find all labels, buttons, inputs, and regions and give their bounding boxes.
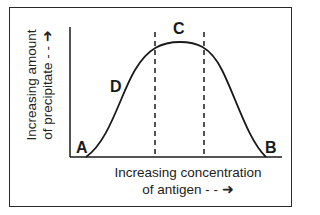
x-axis-label-line2: of antigen - - ➜ <box>88 181 288 198</box>
point-label-c: C <box>173 20 185 38</box>
x-axis-label-line1: Increasing concentration <box>88 164 288 181</box>
point-label-d: D <box>110 78 122 96</box>
x-axis-label: Increasing concentration of antigen - - … <box>88 164 288 198</box>
precipitation-curve <box>86 42 266 157</box>
point-label-a: A <box>76 139 88 157</box>
point-label-b: B <box>265 139 277 157</box>
y-axis-label-line1: Increasing amount <box>24 10 40 160</box>
y-axis-label: Increasing amount of precipitate - - ➜ <box>24 10 56 160</box>
y-axis-label-line2: of precipitate - - ➜ <box>40 10 56 160</box>
